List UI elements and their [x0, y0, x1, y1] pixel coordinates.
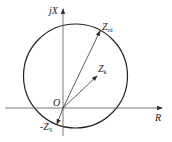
operating-circle	[24, 24, 128, 128]
z-rd-label: Zrd	[102, 22, 113, 33]
z-rd-vector	[63, 31, 100, 108]
neg-z-s-vector	[57, 108, 63, 124]
neg-z-s-label: -ZS	[40, 122, 52, 133]
impedance-diagram	[0, 0, 172, 142]
origin-label: O	[53, 98, 60, 108]
jx-axis-label: jX	[49, 6, 58, 16]
z-k-label: Zk	[98, 64, 107, 75]
z-k-vector	[63, 76, 97, 108]
r-axis-label: R	[155, 113, 161, 123]
